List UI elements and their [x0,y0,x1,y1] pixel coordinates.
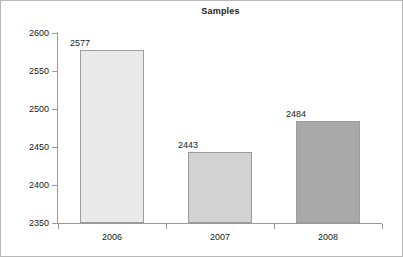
x-axis-line [57,223,382,224]
bar-2007[interactable] [188,152,252,223]
y-tick-label-2500: 2500 [3,105,49,114]
x-tick-sep-1 [166,224,167,229]
bar-value-label-2008: 2484 [261,110,331,119]
chart-title: Samples [1,6,403,16]
y-tick-label-2600: 2600 [3,29,49,38]
x-axis-label-2008: 2008 [274,232,382,242]
x-axis-label-2006: 2006 [58,232,166,242]
bar-value-label-2007: 2443 [153,141,223,150]
x-tick-end [382,224,383,229]
y-tick-2350 [52,223,57,224]
bar-2008[interactable] [296,121,360,223]
y-tick-2500 [52,109,57,110]
bar-2006[interactable] [80,50,144,223]
y-tick-2550 [52,71,57,72]
chart-frame: Samples 2600 2550 2500 2450 2400 2350 25… [0,0,403,257]
y-tick-2400 [52,185,57,186]
bar-value-label-2006: 2577 [45,39,115,48]
x-axis-label-2007: 2007 [166,232,274,242]
y-tick-label-2450: 2450 [3,143,49,152]
x-tick-start [58,224,59,229]
y-tick-2450 [52,147,57,148]
y-tick-label-2400: 2400 [3,181,49,190]
plot-area [58,33,382,223]
x-tick-sep-2 [274,224,275,229]
y-tick-label-2350: 2350 [3,219,49,228]
y-tick-label-2550: 2550 [3,67,49,76]
y-tick-2600 [52,33,57,34]
